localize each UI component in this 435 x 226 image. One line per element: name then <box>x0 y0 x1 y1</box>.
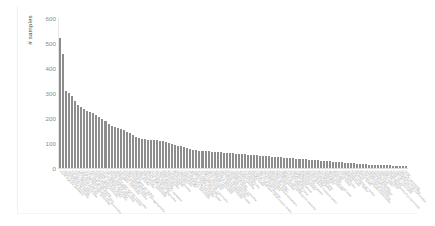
y-tick-label: 400 <box>45 65 56 72</box>
y-tick-label: 200 <box>45 115 56 122</box>
y-tick-label: 0 <box>52 165 56 172</box>
y-tick-label: 100 <box>45 140 56 147</box>
y-axis-tick-labels: 0100200300400500600 <box>36 14 56 170</box>
figure-canvas: # samples 0100200300400500600 acute myel… <box>0 0 435 226</box>
bar <box>405 166 408 168</box>
bar-series <box>59 18 408 168</box>
y-tick-label: 600 <box>45 15 56 22</box>
y-tick-label: 300 <box>45 90 56 97</box>
page-edge-left-divider <box>17 6 18 214</box>
y-tick-label: 500 <box>45 40 56 47</box>
x-axis-tick-labels: acute myeloid leukemiabreast invasive ca… <box>59 170 411 222</box>
plot-area <box>59 18 408 168</box>
y-axis-label: # samples <box>26 0 33 68</box>
